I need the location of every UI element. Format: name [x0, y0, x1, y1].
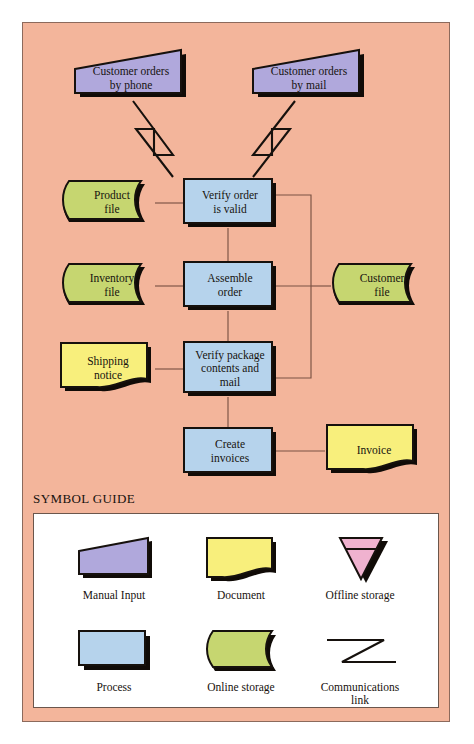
- flowchart-page: Customer orders by phone Customer orders…: [0, 0, 474, 744]
- diagram-panel: Customer orders by phone Customer orders…: [22, 22, 450, 722]
- document-icon: [177, 530, 305, 588]
- flow-diagram: Customer orders by phone Customer orders…: [23, 23, 451, 485]
- legend-art: [177, 622, 305, 680]
- node-create-invoices[interactable]: Create invoices: [183, 427, 277, 477]
- legend-art: [177, 530, 305, 588]
- node-invoice[interactable]: Invoice: [325, 423, 423, 479]
- manual-input-icon: [50, 530, 178, 588]
- online-storage-shape: [59, 261, 155, 311]
- node-shipping-notice[interactable]: Shipping notice: [59, 341, 157, 397]
- legend-label: Document: [177, 589, 305, 602]
- communications-link-mail: [253, 101, 295, 177]
- node-assemble-order[interactable]: Assemble order: [183, 261, 277, 311]
- legend-item-process: Process: [50, 622, 178, 694]
- legend-art: [296, 622, 424, 680]
- online-storage-shape: [329, 261, 425, 311]
- edge-bus-package: [274, 286, 311, 378]
- online-storage-shape: [59, 178, 155, 228]
- process-shape: [183, 427, 277, 477]
- legend-label: Offline storage: [296, 589, 424, 602]
- legend-label: Process: [50, 681, 178, 694]
- communications-link-phone: [133, 101, 173, 177]
- manual-input-shape: [251, 48, 367, 101]
- communications-link-icon: [296, 622, 424, 680]
- node-customer-file[interactable]: Customer file: [329, 261, 425, 311]
- legend-art: [50, 622, 178, 680]
- node-verify-package[interactable]: Verify package contents and mail: [183, 341, 277, 397]
- document-shape: [59, 341, 157, 397]
- node-orders-phone[interactable]: Customer orders by phone: [73, 48, 189, 101]
- manual-input-shape: [73, 48, 189, 101]
- legend-label: Communications link: [296, 681, 424, 707]
- node-verify-order[interactable]: Verify order is valid: [183, 178, 277, 228]
- online-storage-icon: [177, 622, 305, 680]
- legend-item-online-storage: Online storage: [177, 622, 305, 694]
- node-inventory-file[interactable]: Inventory file: [59, 261, 155, 311]
- legend-art: [50, 530, 178, 588]
- node-orders-mail[interactable]: Customer orders by mail: [251, 48, 367, 101]
- process-shape: [183, 341, 277, 397]
- legend-item-communications-link: Communications link: [296, 622, 424, 707]
- document-shape: [325, 423, 423, 479]
- process-shape: [183, 261, 277, 311]
- symbol-guide-title: SYMBOL GUIDE: [33, 491, 135, 507]
- legend-item-offline-storage: Offline storage: [296, 530, 424, 602]
- legend-label: Manual Input: [50, 589, 178, 602]
- node-product-file[interactable]: Product file: [59, 178, 155, 228]
- legend-art: [296, 530, 424, 588]
- edge-bus-verify: [274, 195, 311, 286]
- symbol-guide-box: Manual Input Document: [33, 513, 439, 708]
- legend-item-document: Document: [177, 530, 305, 602]
- legend-label: Online storage: [177, 681, 305, 694]
- process-icon: [50, 622, 178, 680]
- offline-storage-icon: [296, 530, 424, 588]
- legend-item-manual-input: Manual Input: [50, 530, 178, 602]
- process-shape: [183, 178, 277, 228]
